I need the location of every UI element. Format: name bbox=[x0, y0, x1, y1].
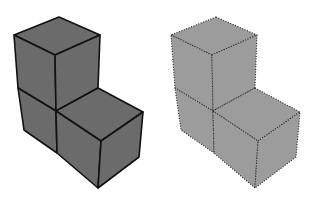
dotted-cube-figure bbox=[171, 17, 300, 188]
cube-diagram bbox=[0, 0, 312, 203]
solid-cube-figure bbox=[14, 17, 143, 188]
